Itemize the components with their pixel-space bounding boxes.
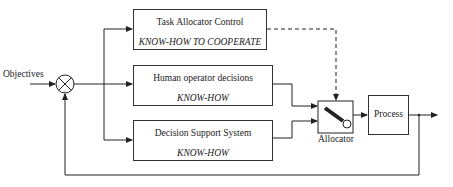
block-title: Human operator decisions (134, 73, 272, 83)
process-label: Process (369, 109, 408, 119)
task-allocator-control-block: Task Allocator Control KNOW-HOW TO COOPE… (133, 9, 267, 50)
human-operator-block: Human operator decisions KNOW-HOW (133, 65, 273, 106)
block-subtitle: KNOW-HOW TO COOPERATE (134, 37, 266, 47)
block-subtitle: KNOW-HOW (134, 148, 272, 158)
decision-support-system-block: Decision Support System KNOW-HOW (133, 120, 273, 161)
allocator-switch (318, 101, 353, 133)
summing-junction: + - (56, 75, 74, 94)
block-title: Decision Support System (134, 128, 272, 138)
allocator-label: Allocator (318, 134, 354, 144)
objectives-label: Objectives (3, 69, 44, 79)
block-subtitle: KNOW-HOW (134, 93, 272, 103)
svg-text:+: + (57, 84, 60, 89)
process-block: Process (368, 95, 409, 135)
block-title: Task Allocator Control (134, 17, 266, 27)
